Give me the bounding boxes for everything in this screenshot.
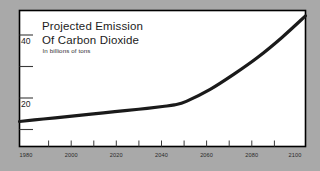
chart-subtitle: In billions of tons — [43, 47, 91, 54]
x-tick-label-1980: 1980 — [20, 152, 33, 158]
chart-figure: 40 20 1980 2000 2020 2040 2060 2080 2100… — [0, 0, 320, 171]
x-tick-label-2080: 2080 — [245, 152, 258, 158]
y-tick-label-20: 20 — [21, 99, 31, 109]
x-tick-label-2100: 2100 — [289, 152, 302, 158]
chart-title-line-2: Of Carbon Dioxide — [42, 34, 139, 46]
chart-title-line-1: Projected Emission — [42, 20, 143, 32]
y-tick-label-40: 40 — [21, 36, 31, 46]
x-tick-label-2020: 2020 — [110, 152, 123, 158]
co2-projection-chart: 40 20 1980 2000 2020 2040 2060 2080 2100… — [0, 0, 320, 171]
x-tick-label-2040: 2040 — [155, 152, 168, 158]
x-tick-label-2060: 2060 — [200, 152, 213, 158]
x-tick-label-2000: 2000 — [65, 152, 78, 158]
